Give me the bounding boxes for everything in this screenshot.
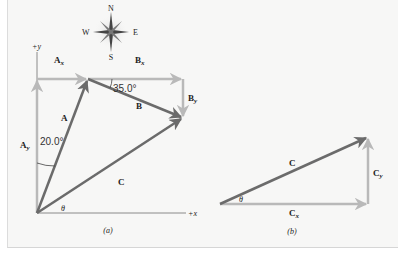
x-axis-label: +x bbox=[188, 209, 197, 218]
compass-north-label: N bbox=[108, 4, 114, 13]
theta-label-a: θ bbox=[61, 204, 65, 213]
angle-arc-b bbox=[110, 79, 112, 88]
compass-east-label: E bbox=[133, 28, 138, 37]
label-cy: Cy bbox=[373, 168, 384, 180]
label-b: B bbox=[136, 101, 142, 111]
theta-label-b: θ bbox=[239, 195, 243, 204]
caption-b: (b) bbox=[287, 227, 297, 236]
label-cx: Cx bbox=[289, 208, 300, 220]
label-ay: Ay bbox=[20, 140, 31, 152]
label-a: A bbox=[61, 113, 68, 123]
compass-west-label: W bbox=[82, 28, 90, 37]
label-by: By bbox=[188, 93, 198, 105]
caption-a: (a) bbox=[103, 226, 113, 235]
y-axis-label: +y bbox=[32, 42, 41, 51]
angle-label-a: 20.0° bbox=[40, 136, 63, 147]
label-ax: Ax bbox=[54, 55, 65, 67]
vector-c bbox=[37, 119, 181, 213]
label-c-b: C bbox=[289, 158, 296, 168]
angle-label-b: 35.0° bbox=[113, 83, 136, 94]
compass-rose-icon: N S E W bbox=[82, 4, 138, 62]
vector-a bbox=[37, 81, 87, 213]
angle-arc-a bbox=[37, 163, 55, 166]
label-c: C bbox=[118, 177, 125, 187]
compass-south-label: S bbox=[109, 53, 113, 62]
label-bx: Bx bbox=[135, 55, 145, 67]
diagram-svg: N S E W +x +y Ax Bx By Ay A B C 35.0° 20… bbox=[0, 0, 398, 257]
